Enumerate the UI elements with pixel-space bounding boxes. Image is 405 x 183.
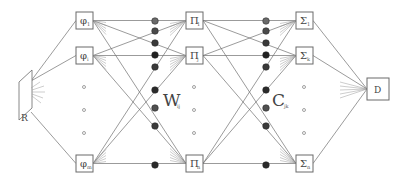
weight-label-c: C jk: [272, 90, 290, 110]
svg-text:1: 1: [197, 21, 200, 27]
pi-node-1: Π1: [186, 12, 203, 29]
pi-node-j: Πj: [186, 47, 203, 64]
w-weight-circle: [152, 123, 159, 130]
svg-text:φ: φ: [80, 15, 87, 26]
network-diagram: R φ1φiφm Π1ΠjΠn Σ1ΣkΣn W ij C jk D: [0, 0, 405, 183]
svg-text:ij: ij: [177, 103, 181, 110]
phi-layer: φ1φiφm: [76, 12, 93, 172]
svg-text:m: m: [87, 164, 92, 170]
pi-node-n: Πn: [186, 155, 203, 172]
output-node-d: D: [367, 78, 389, 100]
weight-label-w: W ij: [163, 90, 181, 110]
phi-node-m: φm: [76, 155, 93, 172]
svg-text:φ: φ: [80, 158, 87, 169]
w-weight-circle: [152, 162, 159, 169]
connection-lines: [31, 21, 367, 164]
phi-node-1: φ1: [76, 12, 93, 29]
c-weight-circle: [263, 52, 270, 59]
c-weight-circle: [263, 40, 270, 47]
w-weight-circle: [152, 64, 159, 71]
sigma-node-1: Σ1: [296, 12, 313, 29]
pi-layer: Π1ΠjΠn: [186, 12, 203, 172]
c-weight-circle: [263, 18, 270, 25]
c-weight-circle: [263, 123, 270, 130]
w-weight-circle: [152, 40, 159, 47]
w-weight-circle: [152, 105, 159, 112]
sigma-layer: Σ1ΣkΣn: [296, 12, 313, 172]
sigma-node-k: Σk: [296, 47, 313, 64]
svg-text:φ: φ: [80, 50, 87, 61]
w-weight-circle: [152, 18, 159, 25]
c-weight-circle: [263, 87, 270, 94]
phi-node-i: φi: [76, 47, 93, 64]
c-weight-circle: [263, 105, 270, 112]
svg-text:jk: jk: [283, 103, 290, 110]
c-weight-circle: [263, 28, 270, 35]
c-weight-circle: [263, 64, 270, 71]
c-weight-circle: [263, 162, 270, 169]
retina-input: R: [19, 70, 45, 123]
w-weight-circle: [152, 52, 159, 59]
sigma-node-n: Σn: [296, 155, 313, 172]
retina-label: R: [21, 113, 28, 123]
w-weight-circle: [152, 28, 159, 35]
svg-text:D: D: [374, 85, 381, 95]
w-weight-circle: [152, 87, 159, 94]
input-fan-lines: [93, 21, 367, 164]
svg-text:j: j: [196, 56, 199, 63]
svg-text:1: 1: [87, 21, 90, 27]
svg-text:1: 1: [307, 21, 310, 27]
